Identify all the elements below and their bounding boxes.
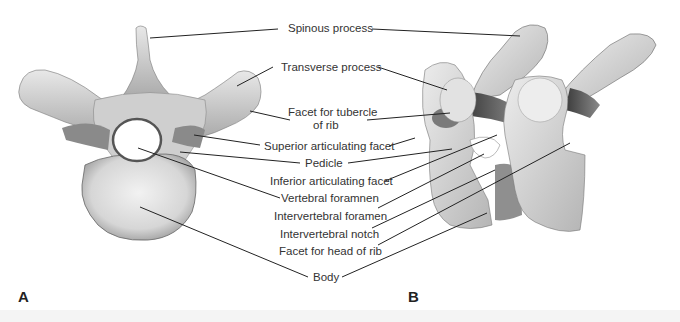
- label-intervertebral-foramen: Intervertebral foramen: [274, 210, 387, 223]
- vertebrae-lateral-view: [422, 25, 656, 232]
- label-pedicle: Pedicle: [305, 157, 343, 170]
- label-spinous-process: Spinous process: [288, 22, 373, 35]
- panel-label-b: B: [408, 288, 419, 305]
- label-facet-tubercle-line2: of rib: [313, 119, 339, 132]
- label-facet-head-of-rib: Facet for head of rib: [279, 245, 382, 258]
- label-superior-articulating-facet: Superior articulating facet: [264, 140, 394, 153]
- label-inferior-articulating-facet: Inferior articulating facet: [270, 175, 393, 188]
- vertebra-superior-view: [19, 26, 261, 240]
- label-transverse-process: Transverse process: [281, 61, 382, 74]
- label-intervertebral-notch: Intervertebral notch: [280, 228, 379, 241]
- bottom-band: [0, 310, 680, 322]
- label-vertebral-foramen: Vertebral foramnen: [281, 192, 379, 205]
- panel-label-a: A: [18, 288, 29, 305]
- label-facet-tubercle-line1: Facet for tubercle: [288, 106, 377, 119]
- label-body: Body: [313, 271, 339, 284]
